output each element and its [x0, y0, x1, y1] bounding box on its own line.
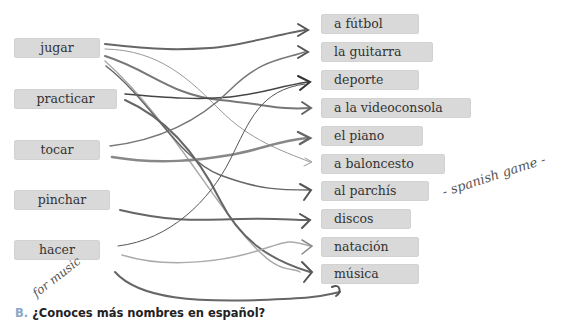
exercise-letter: B.: [15, 306, 28, 320]
exercise-question: B. ¿Conoces más nombres en español?: [15, 306, 265, 320]
matching-lines: [0, 0, 566, 326]
exercise-question-text: ¿Conoces más nombres en español?: [32, 306, 265, 320]
